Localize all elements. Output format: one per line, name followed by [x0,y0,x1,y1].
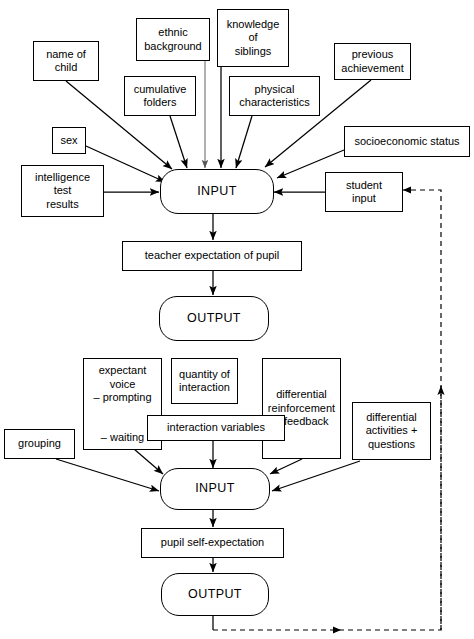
node-label: interaction variables [167,421,265,435]
node-label: cumulativefolders [134,83,187,110]
node-previous-achievement[interactable]: previousachievement [334,43,411,80]
node-label: sex [60,134,77,148]
node-label: name ofchild [46,48,86,75]
node-label: grouping [18,437,61,451]
node-student-input[interactable]: studentinput [325,172,403,212]
node-input-bottom[interactable]: INPUT [160,468,270,510]
node-label: studentinput [346,179,382,206]
node-label: socioeconomic status [354,135,459,149]
node-label-top: expectantvoice– prompting [87,364,158,405]
node-label: differentialactivities +questions [366,411,418,452]
node-label: OUTPUT [187,312,241,326]
node-socioeconomic-status[interactable]: socioeconomic status [344,126,470,157]
node-output-top[interactable]: OUTPUT [159,296,269,341]
node-label: INPUT [197,185,237,199]
node-ethnic-background[interactable]: ethnicbackground [136,18,210,61]
node-differential-activities[interactable]: differentialactivities +questions [352,402,431,460]
node-differential-reinforcement[interactable]: differentialreinforcement+ feedback [262,358,341,459]
node-interaction-variables[interactable]: interaction variables [147,415,285,441]
node-quantity-of-interaction[interactable]: quantity ofinteraction [171,358,238,404]
node-label: intelligencetestresults [35,171,90,212]
node-input-top[interactable]: INPUT [160,169,274,214]
node-label: ethnicbackground [144,26,202,53]
node-intelligence-test-results[interactable]: intelligencetestresults [21,165,104,217]
node-output-bottom[interactable]: OUTPUT [161,573,269,616]
node-cumulative-folders[interactable]: cumulativefolders [124,76,196,116]
node-name-of-child[interactable]: name ofchild [33,41,99,81]
node-teacher-expectation-of-pupil[interactable]: teacher expectation of pupil [122,241,302,271]
node-grouping[interactable]: grouping [4,429,75,459]
node-label: knowledgeofsiblings [227,18,280,59]
node-label: previousachievement [341,48,403,75]
node-label: OUTPUT [188,588,242,602]
node-label: physicalcharacteristics [239,83,309,110]
node-label: INPUT [195,482,235,496]
node-pupil-self-expectation[interactable]: pupil self-expectation [141,528,284,558]
node-label: pupil self-expectation [161,536,264,550]
node-label: quantity ofinteraction [179,368,230,395]
node-knowledge-of-siblings[interactable]: knowledgeofsiblings [217,9,289,67]
node-sex[interactable]: sex [52,127,86,154]
diagram-canvas: name ofchild ethnicbackground knowledgeo… [0,0,474,639]
node-physical-characteristics[interactable]: physicalcharacteristics [229,76,320,116]
node-label: teacher expectation of pupil [145,249,280,263]
